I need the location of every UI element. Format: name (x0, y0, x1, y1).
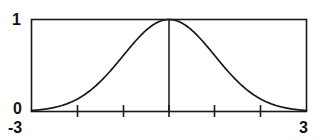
gaussian-figure: 1 0 -3 3 (0, 0, 333, 140)
x-axis-max-label: 3 (299, 120, 308, 136)
chart-canvas (0, 0, 333, 140)
y-axis-max-label: 1 (12, 12, 21, 28)
x-axis-min-label: -3 (8, 120, 22, 136)
y-axis-min-label: 0 (13, 101, 22, 117)
